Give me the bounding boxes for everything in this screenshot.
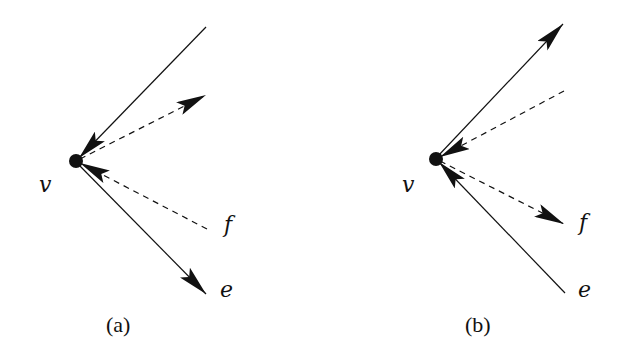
edge-f-b [440, 161, 564, 224]
edge-e-b [439, 162, 565, 293]
edge-upper-dashed-a [80, 95, 206, 159]
label-v-a: v [39, 172, 52, 197]
label-v-b: v [402, 172, 415, 197]
caption-a: (a) [106, 312, 130, 337]
label-e-b: e [578, 277, 591, 302]
diagram-canvas: v f e (a) v f e (b) [0, 0, 632, 357]
label-e-a: e [220, 277, 233, 302]
edge-e-a [78, 164, 206, 294]
panel-b: v f e (b) [402, 24, 591, 337]
edge-f-a [80, 163, 207, 229]
caption-b: (b) [465, 312, 491, 337]
edge-upper-solid-a [79, 27, 206, 158]
vertex-v-b [429, 152, 443, 166]
edge-upper-dashed-b [440, 91, 564, 157]
label-f-b: f [577, 210, 591, 235]
label-f-a: f [222, 212, 236, 237]
edge-upper-solid-b [438, 24, 563, 156]
vertex-v-a [69, 154, 83, 168]
panel-a: v f e (a) [39, 27, 236, 337]
